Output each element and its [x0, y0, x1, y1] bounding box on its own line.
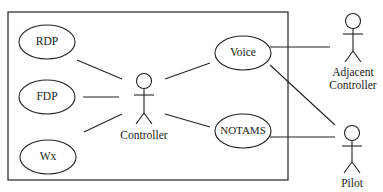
assoc-controller-voice [165, 63, 210, 79]
actor-controller[interactable] [134, 74, 154, 125]
actor-label-controller: Controller [112, 129, 176, 142]
actor-label-adjacent-line1: Adjacent [323, 66, 383, 79]
use-case-label-rdp: RDP [19, 35, 75, 48]
use-case-label-voice: Voice [215, 46, 271, 59]
actor-adjacent-controller[interactable] [343, 14, 363, 63]
actor-label-pilot: Pilot [332, 177, 372, 190]
use-case-label-notams: NOTAMS [213, 124, 273, 137]
use-case-label-wx: Wx [20, 150, 76, 163]
actor-pilot[interactable] [342, 126, 362, 174]
assoc-controller-notams [165, 114, 210, 127]
assoc-rdp-controller [77, 60, 122, 79]
use-case-label-fdp: FDP [19, 90, 75, 103]
actor-label-adjacent-line2: Controller [321, 79, 383, 92]
